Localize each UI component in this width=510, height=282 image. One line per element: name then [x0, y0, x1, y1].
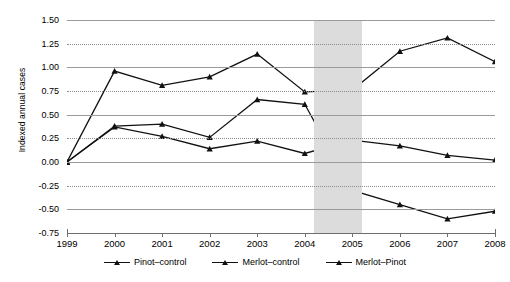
- x-axis-tick-label: 2004: [294, 238, 315, 249]
- x-axis-tick: [352, 233, 353, 237]
- x-axis-tick: [447, 233, 448, 237]
- data-point-marker: [444, 35, 450, 41]
- y-axis-tick-label: 1.00: [21, 62, 59, 72]
- legend-marker-icon: [104, 259, 130, 267]
- y-axis-tick-label: 0.75: [21, 86, 59, 96]
- gridline: [67, 20, 495, 21]
- gridline: [67, 162, 495, 163]
- y-axis-tick-label: -0.50: [21, 204, 59, 214]
- x-axis-tick: [67, 233, 68, 237]
- legend-marker-icon: [326, 259, 352, 267]
- gridline: [67, 186, 495, 187]
- gridline: [67, 209, 495, 210]
- legend-item-label: Merlot–Pinot: [356, 258, 407, 267]
- x-axis-tick-label: 2008: [484, 238, 505, 249]
- legend-item[interactable]: Merlot–Pinot: [326, 258, 407, 267]
- gridline: [67, 91, 495, 92]
- plot-area: [67, 20, 495, 233]
- legend-item[interactable]: Pinot–control: [104, 258, 187, 267]
- shaded-region: [314, 20, 362, 233]
- data-point-marker: [254, 51, 260, 57]
- series-lines: [67, 20, 495, 233]
- x-axis-tick-label: 2001: [152, 238, 173, 249]
- x-axis-tick: [305, 233, 306, 237]
- y-axis-tick-label: 1.50: [21, 15, 59, 25]
- y-axis-tick-label: 1.25: [21, 39, 59, 49]
- gridline: [67, 67, 495, 68]
- x-axis-tick: [257, 233, 258, 237]
- data-point-marker: [111, 68, 117, 74]
- legend-item[interactable]: Merlot–control: [212, 258, 299, 267]
- gridline: [67, 44, 495, 45]
- x-axis-tick: [115, 233, 116, 237]
- y-axis-tick-label: 0.50: [21, 110, 59, 120]
- series-line: [67, 38, 495, 162]
- x-axis-tick: [210, 233, 211, 237]
- chart-legend: Pinot–control Merlot–control Merlot–Pino…: [0, 258, 510, 267]
- chart-figure: Indexed annual cases 1.501.251.000.750.5…: [0, 0, 510, 282]
- legend-item-label: Pinot–control: [134, 258, 187, 267]
- gridline: [67, 138, 495, 139]
- data-point-marker: [492, 59, 495, 65]
- x-axis-line: [67, 233, 495, 234]
- y-axis-tick-label: 0.00: [21, 157, 59, 167]
- y-axis-tick-label: -0.25: [21, 181, 59, 191]
- x-axis-tick-label: 2007: [437, 238, 458, 249]
- legend-item-label: Merlot–control: [242, 258, 299, 267]
- x-axis-tick: [400, 233, 401, 237]
- x-axis-tick: [162, 233, 163, 237]
- x-axis-tick-label: 2005: [342, 238, 363, 249]
- x-axis-tick-label: 2003: [247, 238, 268, 249]
- series-line: [67, 100, 495, 219]
- x-axis-tick: [495, 233, 496, 237]
- legend-marker-icon: [212, 259, 238, 267]
- series-line: [67, 127, 495, 162]
- y-axis-tick-label: -0.75: [21, 228, 59, 238]
- x-axis-tick-label: 1999: [56, 238, 77, 249]
- x-axis-tick-label: 2002: [199, 238, 220, 249]
- x-axis-tick-label: 2006: [389, 238, 410, 249]
- x-axis-tick-label: 2000: [104, 238, 125, 249]
- gridline: [67, 115, 495, 116]
- y-axis-tick-label: 0.25: [21, 133, 59, 143]
